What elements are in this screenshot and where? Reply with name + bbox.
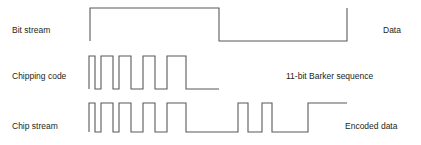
chip-stream-waveform [89, 103, 347, 132]
bit-stream-waveform [90, 8, 347, 41]
bit-stream-label: Bit stream [12, 26, 50, 35]
encoded-data-label: Encoded data [345, 122, 397, 131]
dsss-waveform-figure: Bit stream Data Chipping code 11-bit Bar… [0, 0, 421, 145]
data-label: Data [383, 26, 401, 35]
chipping-code-waveform [89, 56, 219, 89]
chip-stream-label: Chip stream [12, 122, 58, 131]
barker-sequence-label: 11-bit Barker sequence [286, 72, 373, 81]
chipping-code-label: Chipping code [12, 72, 66, 81]
